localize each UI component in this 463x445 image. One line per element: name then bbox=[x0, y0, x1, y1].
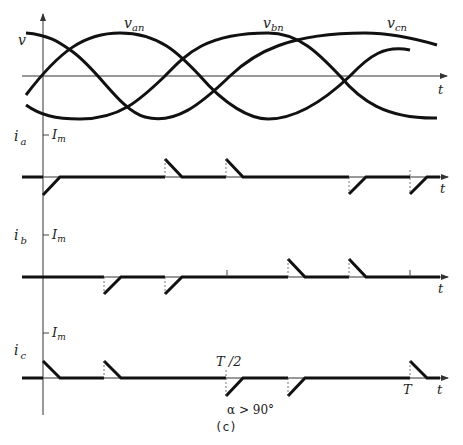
ia-plot: ia Im t bbox=[14, 127, 448, 196]
alpha-condition-label: α > 90° bbox=[227, 403, 274, 417]
ia-im-label: Im bbox=[51, 127, 66, 144]
ib-waveform bbox=[22, 259, 440, 294]
ib-label: ib bbox=[14, 227, 27, 246]
ic-t-label: t bbox=[437, 382, 443, 397]
figure-caption: (c) bbox=[215, 420, 237, 434]
ic-im-label: Im bbox=[51, 325, 66, 342]
v-an-label: van bbox=[124, 15, 144, 33]
half-period-label: T /2 bbox=[216, 354, 241, 369]
voltage-axis-label: v bbox=[18, 32, 26, 48]
ia-label: ia bbox=[14, 128, 26, 147]
ia-t-label: t bbox=[440, 181, 446, 196]
ic-label: ic bbox=[14, 342, 26, 361]
period-label: T bbox=[403, 382, 413, 397]
ib-t-label: t bbox=[438, 281, 444, 296]
ib-plot: ib Im t bbox=[14, 227, 448, 296]
voltage-plot: v van vbn vcn t bbox=[18, 15, 447, 119]
three-phase-waveform-diagram: v van vbn vcn t ia Im t ib Im t ic bbox=[0, 0, 463, 445]
v-cn-label: vcn bbox=[387, 15, 407, 33]
ib-im-label: Im bbox=[51, 227, 66, 244]
ic-plot: ic Im T /2 T t bbox=[14, 325, 448, 397]
v-bn-label: vbn bbox=[263, 15, 284, 33]
voltage-t-label: t bbox=[438, 82, 444, 97]
